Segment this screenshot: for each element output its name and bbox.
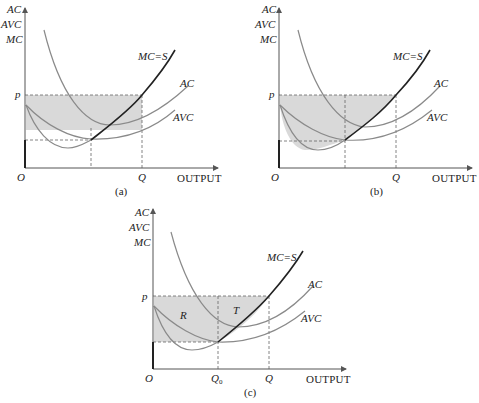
panel-a-ac-label: AC bbox=[180, 78, 194, 89]
panel-a-yaxis-label-ac: AC bbox=[7, 4, 21, 15]
panel-a-price-label: p bbox=[15, 89, 21, 100]
panel-c-mc-label: MC=S bbox=[267, 252, 296, 263]
panel-c-price-label: p bbox=[142, 291, 148, 302]
panel-a-origin-label: O bbox=[17, 172, 25, 183]
panel-c-avc-label: AVC bbox=[301, 313, 321, 324]
panel-c-region-t-label: T bbox=[233, 305, 239, 316]
panel-a-yaxis-label-avc: AVC bbox=[1, 19, 21, 30]
panel-a-caption: (a) bbox=[115, 186, 127, 197]
panel-c-region-r-label: R bbox=[180, 310, 187, 321]
panel-b-quantity-label: Q bbox=[392, 172, 400, 183]
panel-b-xaxis-label: OUTPUT bbox=[432, 173, 477, 184]
panel-c-xaxis-label: OUTPUT bbox=[306, 374, 351, 385]
panel-b-yaxis-label-mc: MC bbox=[260, 34, 277, 45]
panel-c-q0-letter: Q bbox=[211, 372, 219, 384]
panel-c-yaxis-label-mc: MC bbox=[134, 237, 151, 248]
panel-c-shaded-r-t bbox=[154, 296, 269, 342]
panel-b-shaded-area bbox=[280, 95, 396, 150]
panel-c-quantity-label: Q bbox=[265, 373, 273, 384]
panel-b-mc-label: MC=S bbox=[393, 51, 422, 62]
panel-a-mc-label: MC=S bbox=[138, 51, 167, 62]
panel-a-avc-label: AVC bbox=[173, 112, 193, 123]
panel-b-origin-label: O bbox=[271, 172, 279, 183]
panel-b-yaxis-label-avc: AVC bbox=[255, 19, 275, 30]
panel-c-ac-label: AC bbox=[308, 279, 322, 290]
panel-b-caption: (b) bbox=[370, 186, 383, 197]
panel-c-yaxis-label-ac: AC bbox=[135, 207, 149, 218]
panel-b-avc-label: AVC bbox=[427, 112, 447, 123]
panel-b-ac-label: AC bbox=[434, 78, 448, 89]
panel-a-quantity-label: Q bbox=[138, 172, 146, 183]
panel-b-yaxis-label-ac: AC bbox=[262, 4, 276, 15]
panel-a-yaxis-label-mc: MC bbox=[6, 34, 23, 45]
panel-c-caption: (c) bbox=[244, 387, 256, 398]
panel-c-q0-label: Q0 bbox=[211, 373, 222, 386]
panel-a-xaxis-label: OUTPUT bbox=[177, 173, 222, 184]
panel-c-origin-label: O bbox=[145, 373, 153, 384]
panel-c-q0-subscript: 0 bbox=[219, 378, 223, 386]
panel-b-price-label: p bbox=[269, 89, 275, 100]
panel-c-yaxis-label-avc: AVC bbox=[129, 222, 149, 233]
